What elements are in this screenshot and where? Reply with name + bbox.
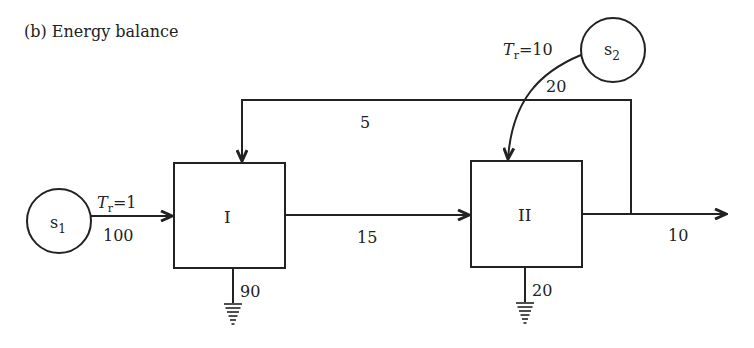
- process-box-2-label: II: [518, 205, 531, 225]
- ground-icon: [516, 303, 534, 323]
- ground-icon: [224, 304, 242, 324]
- process-box-2: II: [471, 161, 582, 267]
- flow-box1-to-box2: 15: [285, 215, 469, 247]
- process-box-1: I: [174, 163, 285, 268]
- figure-title: (b) Energy balance: [24, 22, 178, 41]
- flow-s1-to-box1: Tr=1 100: [91, 193, 172, 245]
- loss-box1-value: 90: [240, 282, 260, 301]
- flow-box1-to-box2-value: 15: [357, 228, 377, 247]
- flow-box2-output: 10: [582, 214, 726, 245]
- flow-feedback-to-box1: 5: [242, 100, 631, 214]
- loss-box1: 90: [224, 268, 260, 324]
- energy-balance-diagram: (b) Energy balance s1 s2 I II Tr=1 100 1…: [0, 0, 754, 348]
- source-s2: s2: [581, 18, 645, 82]
- source-s1-label: s1: [50, 213, 66, 236]
- flow-feedback-value: 5: [360, 113, 370, 132]
- source-s1: s1: [27, 189, 91, 253]
- process-box-1-label: I: [224, 207, 231, 227]
- flow-s2-value: 20: [546, 77, 566, 96]
- flow-s1-value: 100: [103, 226, 134, 245]
- flow-s2-tr-label: Tr=10: [503, 40, 553, 62]
- flow-s1-tr-label: Tr=1: [97, 193, 137, 215]
- diagram-svg: (b) Energy balance s1 s2 I II Tr=1 100 1…: [0, 0, 754, 348]
- source-s2-label: s2: [604, 40, 620, 63]
- loss-box2-value: 20: [532, 281, 552, 300]
- loss-box2: 20: [516, 267, 552, 323]
- flow-box2-output-value: 10: [668, 226, 688, 245]
